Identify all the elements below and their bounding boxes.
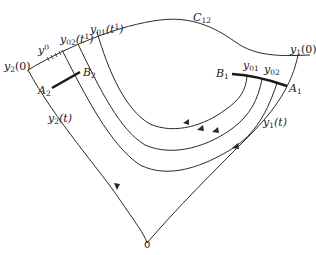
label-b2: B2 <box>83 67 96 80</box>
label-y2-0: y2(0) <box>4 61 31 74</box>
label-y01-t1: y01(t1) <box>90 23 124 37</box>
label-c12: C12 <box>193 12 211 25</box>
trajectory-inner-2 <box>78 44 262 150</box>
arrow-y1 <box>232 143 239 149</box>
arrow-y2 <box>114 183 120 190</box>
label-b1: B1 <box>216 68 229 81</box>
label-y1-0: y1(0) <box>290 44 316 57</box>
arrow-inner-3 <box>183 119 189 125</box>
phase-portrait-diagram: C12 y1(0) y2(0) y0 y02(t1) y01(t1) B2 A2… <box>0 0 316 255</box>
segment-a2-b2 <box>52 72 80 88</box>
label-a1: A1 <box>289 83 302 96</box>
label-origin: 0 <box>144 240 150 250</box>
label-y0: y0 <box>38 44 49 56</box>
label-y02: y02 <box>264 64 280 77</box>
label-y2-t: y2(t) <box>48 113 72 126</box>
label-y02-t1: y02(t1) <box>60 33 94 47</box>
label-y1-t: y1(t) <box>263 117 287 130</box>
arrow-inner-2 <box>197 125 204 131</box>
arrow-inner-1 <box>212 127 219 133</box>
direction-arrows <box>114 119 239 190</box>
label-y01: y01 <box>243 60 259 73</box>
label-a2: A2 <box>38 85 51 98</box>
